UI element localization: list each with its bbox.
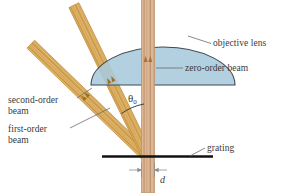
- label-first-order-beam: first-order beam: [8, 124, 47, 145]
- label-objective-lens: objective lens: [213, 38, 266, 49]
- label-grating: grating: [207, 143, 234, 154]
- label-grating-spacing-d: d: [160, 175, 165, 186]
- label-second-order-beam: second-order beam: [8, 95, 58, 116]
- leader-grating: [190, 148, 205, 156]
- theta-subscript: 0: [133, 98, 137, 106]
- label-zero-order-beam: zero-order beam: [185, 63, 248, 74]
- leader-objective-lens: [188, 36, 211, 44]
- zero-order-beam-graphic: [142, 0, 155, 193]
- label-theta-angle: θ0: [128, 93, 137, 108]
